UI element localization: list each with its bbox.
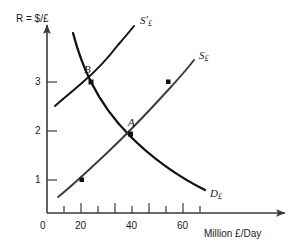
curve-label-demand: D£ — [210, 188, 222, 201]
x-tick-label-60: 60 — [177, 221, 188, 231]
y-axis-ticks — [47, 82, 57, 180]
chart-canvas — [0, 0, 296, 252]
y-tick-label-3: 3 — [35, 77, 41, 87]
marker-point-a — [128, 132, 133, 137]
supply-demand-chart: R = $/£ Million £/Day 0 20 40 60 1 2 3 S… — [0, 0, 296, 252]
supply-curve — [58, 60, 194, 197]
x-tick-label-20: 20 — [75, 221, 86, 231]
curve-label-supply-sub: £ — [205, 54, 209, 63]
x-axis-title: Million £/Day — [204, 229, 261, 239]
marker-supply-high — [166, 80, 171, 85]
point-a-label: A — [128, 117, 135, 128]
curve-label-demand-base: D — [210, 187, 218, 199]
y-tick-label-1: 1 — [35, 175, 41, 185]
curve-label-demand-sub: £ — [218, 192, 222, 201]
curve-label-supply-shifted: S′£ — [140, 14, 152, 28]
curve-label-supply: S£ — [199, 50, 209, 63]
curve-label-supply-shifted-sub: £ — [148, 19, 152, 28]
marker-point-b — [89, 80, 94, 85]
supply-shifted-curve — [55, 26, 134, 106]
x-tick-label-0: 0 — [40, 221, 46, 231]
y-tick-label-2: 2 — [35, 126, 41, 136]
x-tick-label-40: 40 — [126, 221, 137, 231]
point-b-label: B — [84, 64, 91, 75]
marker-supply-low — [80, 178, 85, 183]
x-axis-ticks — [64, 203, 200, 213]
y-axis-title: R = $/£ — [16, 14, 49, 24]
